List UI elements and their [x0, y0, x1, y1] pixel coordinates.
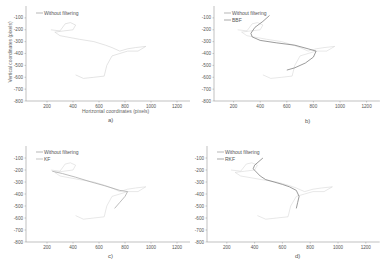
x-tick-label: 800: [121, 245, 129, 250]
series-line: [253, 158, 299, 208]
x-tick-label: 1200: [361, 104, 372, 109]
y-tick-label: -400: [14, 192, 24, 197]
y-tick-label: -700: [195, 228, 205, 233]
panel-a-caption: a): [108, 117, 113, 123]
y-axis-label: Vertical coordinates (pixels): [7, 12, 13, 92]
x-tick-label: 1200: [172, 104, 183, 109]
y-tick-label: -800: [195, 240, 205, 245]
y-tick-label: -600: [14, 75, 24, 80]
x-tick-label: 1000: [146, 245, 157, 250]
x-tick-label: 800: [310, 104, 318, 109]
x-tick-label: 1200: [361, 245, 372, 250]
y-tick-label: -200: [195, 168, 205, 173]
chart-c: -100-200-300-400-500-600-700-80020040060…: [0, 130, 190, 263]
legend-label: Without filtering: [232, 10, 267, 16]
chart-b: -100-200-300-400-500-600-700-80020040060…: [190, 0, 381, 130]
y-tick-label: -500: [202, 63, 212, 68]
legend-label: Without filtering: [44, 10, 79, 16]
y-tick-label: -400: [14, 51, 24, 56]
y-tick-label: -400: [195, 192, 205, 197]
x-tick-label: 800: [306, 245, 314, 250]
x-tick-label: 600: [283, 104, 291, 109]
x-tick-label: 400: [69, 104, 77, 109]
panel-d-caption: d): [295, 253, 300, 259]
y-tick-label: -800: [14, 240, 24, 245]
x-tick-label: 1200: [172, 245, 183, 250]
x-tick-label: 200: [223, 245, 231, 250]
x-tick-label: 600: [279, 245, 287, 250]
panel-c: -100-200-300-400-500-600-700-80020040060…: [0, 130, 190, 263]
series-line: [51, 23, 146, 79]
legend-label: Without filtering: [44, 149, 79, 155]
y-tick-label: -300: [202, 39, 212, 44]
y-tick-label: -200: [14, 27, 24, 32]
y-tick-label: -500: [14, 63, 24, 68]
y-tick-label: -700: [14, 87, 24, 92]
y-tick-label: -500: [14, 204, 24, 209]
series-line: [51, 163, 146, 219]
y-tick-label: -100: [14, 156, 24, 161]
y-tick-label: -300: [14, 180, 24, 185]
y-tick-label: -800: [202, 99, 212, 104]
x-tick-label: 200: [230, 104, 238, 109]
x-tick-label: 600: [95, 245, 103, 250]
legend-label: BBF: [232, 17, 242, 23]
y-tick-label: -200: [202, 27, 212, 32]
y-tick-label: -600: [14, 216, 24, 221]
panel-b: -100-200-300-400-500-600-700-80020040060…: [190, 0, 381, 130]
legend-label: KF: [44, 156, 50, 162]
series-line: [231, 163, 332, 219]
y-tick-label: -100: [14, 15, 24, 20]
panel-c-caption: c): [108, 253, 113, 259]
x-tick-label: 1000: [335, 104, 346, 109]
panel-b-caption: b): [305, 118, 310, 124]
x-tick-label: 1000: [333, 245, 344, 250]
panel-d: -100-200-300-400-500-600-700-80020040060…: [190, 130, 381, 263]
series-line: [251, 16, 316, 71]
y-tick-label: -600: [202, 75, 212, 80]
x-tick-label: 200: [43, 104, 51, 109]
y-tick-label: -600: [195, 216, 205, 221]
x-tick-label: 400: [256, 104, 264, 109]
x-tick-label: 200: [43, 245, 51, 250]
y-tick-label: -700: [202, 87, 212, 92]
y-tick-label: -300: [195, 180, 205, 185]
legend-label: RKF: [225, 156, 235, 162]
x-axis-label: Horizontal coordinates (pixels): [82, 108, 149, 114]
x-tick-label: 400: [69, 245, 77, 250]
panel-a: -100-200-300-400-500-600-700-80020040060…: [0, 0, 190, 130]
y-tick-label: -100: [195, 156, 205, 161]
y-tick-label: -400: [202, 51, 212, 56]
y-tick-label: -200: [14, 168, 24, 173]
x-tick-label: 400: [251, 245, 259, 250]
y-tick-label: -800: [14, 99, 24, 104]
y-tick-label: -700: [14, 228, 24, 233]
y-tick-label: -100: [202, 15, 212, 20]
y-tick-label: -500: [195, 204, 205, 209]
chart-d: -100-200-300-400-500-600-700-80020040060…: [190, 130, 381, 263]
legend-label: Without filtering: [225, 149, 260, 155]
y-tick-label: -300: [14, 39, 24, 44]
